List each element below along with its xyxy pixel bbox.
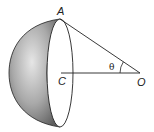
angle-arc [120,62,123,73]
label-a: A [56,5,64,17]
label-c: C [58,75,66,87]
label-theta: θ [109,62,114,72]
hemisphere-diagram: A C O θ [0,0,154,132]
label-o: O [137,76,146,88]
